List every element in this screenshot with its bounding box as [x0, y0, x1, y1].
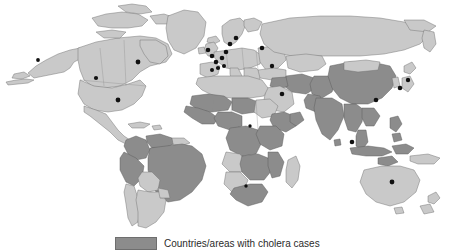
world-map — [0, 0, 449, 232]
region-asia — [258, 16, 440, 166]
legend-swatch-cholera — [115, 237, 157, 250]
region-south-america — [120, 134, 206, 228]
map-legend: Countries/areas with cholera cases — [0, 232, 449, 251]
legend-label-cholera: Countries/areas with cholera cases — [164, 238, 320, 249]
figure-root: Countries/areas with cholera cases — [0, 0, 449, 251]
region-oceania — [360, 166, 440, 214]
world-map-svg — [0, 0, 449, 232]
region-north-america — [6, 4, 220, 144]
legend-entry-cholera: Countries/areas with cholera cases — [115, 237, 320, 250]
